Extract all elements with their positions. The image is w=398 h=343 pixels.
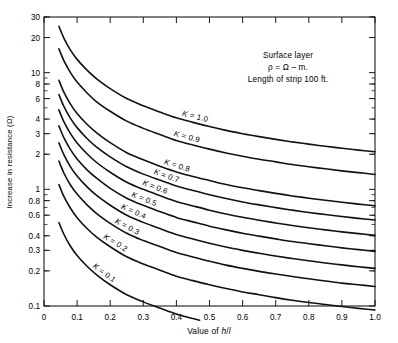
y-axis-label: Increase in resistance (Ω) <box>5 115 14 208</box>
y-tick-label: 10 <box>31 69 41 78</box>
x-tick-label: 0.5 <box>204 313 216 322</box>
y-tick-label: 0.2 <box>29 267 41 276</box>
y-tick-label: 6 <box>35 95 40 104</box>
annotation-line-2: ρ = Ω – m. <box>268 63 308 72</box>
y-tick-label: 0.3 <box>29 246 41 255</box>
x-tick-label: 0.1 <box>71 313 83 322</box>
y-tick-label: 0.1 <box>29 302 41 311</box>
annotation-block: Surface layer ρ = Ω – m. Length of strip… <box>248 51 328 84</box>
x-tick-label: 0 <box>42 313 47 322</box>
y-tick-label: 2 <box>35 150 40 159</box>
x-axis-tick-labels: 00.10.20.30.40.50.60.70.80.91.0 <box>42 313 381 322</box>
annotation-line-1: Surface layer <box>263 51 313 60</box>
y-tick-label: 30 <box>31 13 41 22</box>
x-axis-label: Value of h/l <box>187 326 232 336</box>
y-tick-label: 1 <box>35 185 40 194</box>
y-tick-label: 20 <box>31 34 41 43</box>
x-tick-label: 0.9 <box>336 313 348 322</box>
y-tick-label: 0.6 <box>29 211 41 220</box>
curve-k10 <box>59 26 375 152</box>
y-tick-label: 8 <box>35 80 40 89</box>
y-tick-label: 4 <box>35 115 40 124</box>
x-tick-label: 0.8 <box>303 313 315 322</box>
curve-labels: K = 1.0K = 0.9K = 0.8K = 0.7K = 0.6K = 0… <box>91 109 209 285</box>
y-tick-label: 3 <box>35 130 40 139</box>
annotation-line-3: Length of strip 100 ft. <box>248 75 328 84</box>
chart-svg: 3020108643210.80.60.40.30.20.1 00.10.20.… <box>0 0 398 343</box>
y-tick-label: 0.8 <box>29 197 41 206</box>
curve-label-k10: K = 1.0 <box>181 109 209 124</box>
x-tick-label: 0.2 <box>105 313 117 322</box>
x-tick-label: 0.3 <box>138 313 150 322</box>
y-tick-label: 0.4 <box>29 232 41 241</box>
curve-k09 <box>59 49 375 175</box>
chart-figure: 3020108643210.80.60.40.30.20.1 00.10.20.… <box>0 0 398 343</box>
curve-label-k09: K = 0.9 <box>173 129 201 145</box>
curve-k08 <box>59 80 375 205</box>
x-tick-label: 0.7 <box>270 313 282 322</box>
x-tick-label: 0.6 <box>237 313 249 322</box>
y-axis-tick-labels: 3020108643210.80.60.40.30.20.1 <box>29 13 41 311</box>
x-tick-label: 1.0 <box>369 313 381 322</box>
curve-k04 <box>59 143 375 269</box>
